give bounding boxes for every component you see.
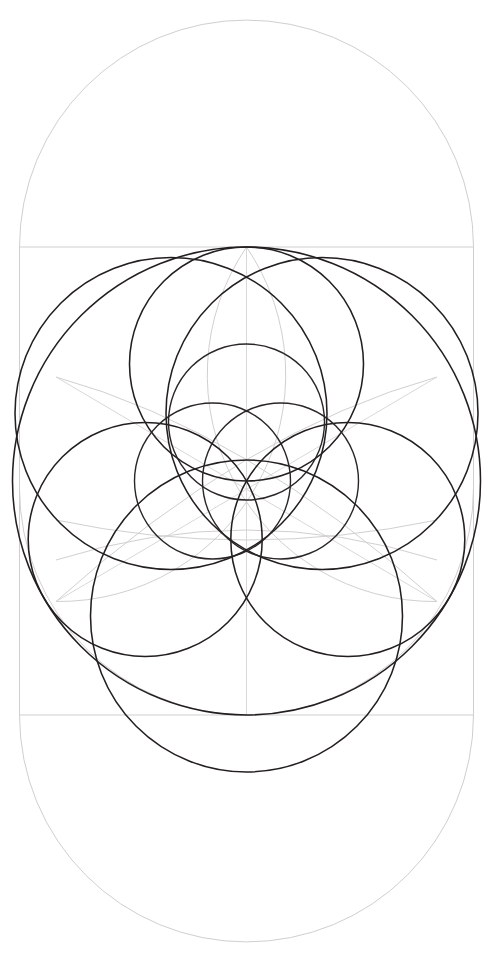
lens-circle-upper-right [166, 258, 478, 570]
geometric-construction-figure [0, 0, 492, 973]
lens-circle-upper-left [15, 258, 327, 570]
guide-arc-bottom-left-sweep [20, 488, 247, 715]
guide-arc-bottom-right-sweep [247, 488, 474, 715]
figure-canvas [0, 0, 492, 973]
